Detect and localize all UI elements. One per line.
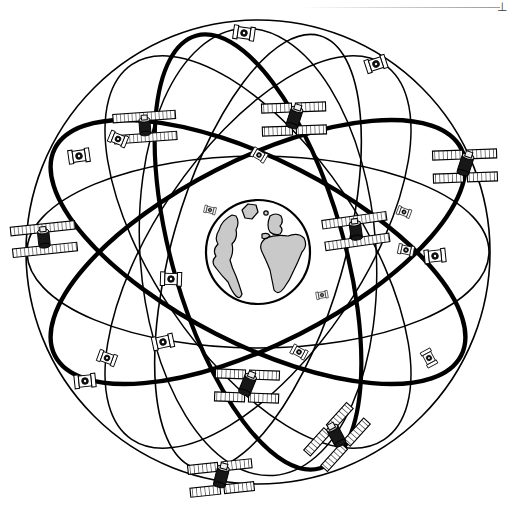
satellite-sv-16[interactable] bbox=[74, 373, 96, 389]
scan-edge-rule bbox=[300, 7, 500, 8]
earth-globe bbox=[206, 200, 310, 304]
arctic-isle bbox=[264, 211, 268, 215]
satellite-sv-01[interactable] bbox=[233, 25, 256, 41]
satellite-sv-06[interactable] bbox=[68, 148, 91, 164]
scan-corner-mark: ⊥ bbox=[497, 2, 506, 13]
europe-outline bbox=[268, 214, 282, 235]
satellite-sv-13[interactable] bbox=[160, 272, 182, 286]
satellite-sv-24[interactable] bbox=[316, 290, 329, 299]
figure-canvas: ⊥ bbox=[0, 0, 516, 520]
gps-constellation-diagram bbox=[0, 0, 516, 520]
satellite-sv-12[interactable] bbox=[424, 248, 446, 264]
